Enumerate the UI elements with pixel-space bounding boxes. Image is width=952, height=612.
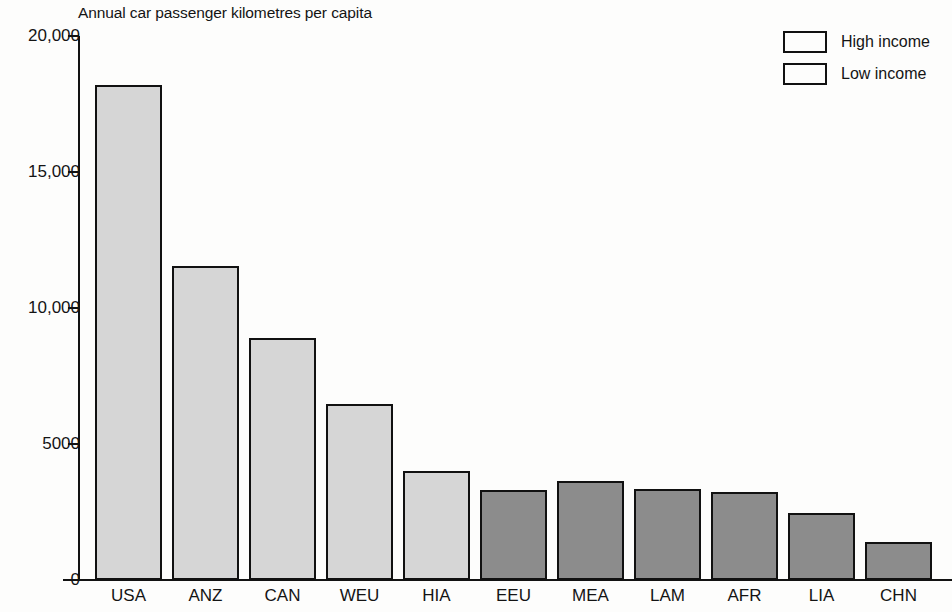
x-axis-label-eeu: EEU bbox=[480, 586, 547, 606]
x-axis-label-weu: WEU bbox=[326, 586, 393, 606]
x-axis-label-lam: LAM bbox=[634, 586, 701, 606]
x-axis-label-hia: HIA bbox=[403, 586, 470, 606]
bar-anz bbox=[172, 266, 239, 580]
x-axis-label-lia: LIA bbox=[788, 586, 855, 606]
bar-weu bbox=[326, 404, 393, 580]
x-axis-label-anz: ANZ bbox=[172, 586, 239, 606]
bar-afr bbox=[711, 492, 778, 580]
bar-lam bbox=[634, 489, 701, 580]
x-axis-label-mea: MEA bbox=[557, 586, 624, 606]
x-axis-label-afr: AFR bbox=[711, 586, 778, 606]
x-axis-label-usa: USA bbox=[95, 586, 162, 606]
bar-eeu bbox=[480, 490, 547, 580]
x-axis-label-chn: CHN bbox=[865, 586, 932, 606]
bar-hia bbox=[403, 471, 470, 580]
bar-chn bbox=[865, 542, 932, 580]
x-axis-label-can: CAN bbox=[249, 586, 316, 606]
plot-area: USAANZCANWEUHIAEEUMEALAMAFRLIACHN bbox=[0, 0, 952, 612]
bar-lia bbox=[788, 513, 855, 580]
bar-can bbox=[249, 338, 316, 580]
bar-mea bbox=[557, 481, 624, 580]
chart-figure: Annual car passenger kilometres per capi… bbox=[0, 0, 952, 612]
bar-usa bbox=[95, 85, 162, 580]
